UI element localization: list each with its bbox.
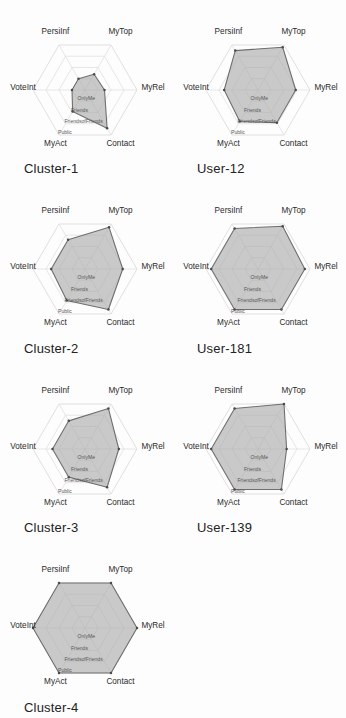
axis-label-voteint: VoteInt: [183, 83, 209, 92]
series-point: [276, 121, 279, 124]
series-point: [285, 448, 288, 451]
axis-label-voteint: VoteInt: [10, 83, 36, 92]
axis-label-persiinf: PersiInf: [42, 385, 70, 394]
ring-tick-label: OnlyMe: [77, 275, 95, 281]
series-point: [67, 239, 70, 242]
ring-tick-label: FriendsofFriends: [64, 297, 103, 303]
radar-chart-cluster-3: OnlyMeFriendsFriendsofFriendsPublicVoteI…: [0, 359, 173, 539]
axis-label-myact: MyAct: [217, 139, 240, 148]
axis-label-mytop: MyTop: [281, 206, 306, 215]
series-point: [103, 89, 106, 92]
series-point: [107, 309, 110, 312]
axis-label-mytop: MyTop: [108, 206, 133, 215]
axis-label-myrel: MyRel: [314, 83, 337, 92]
series-point: [58, 582, 61, 585]
radar-figure: Cluster-4 OnlyMeFriendsFriendsofFriendsP…: [0, 0, 346, 718]
panel-user-181: User-181 OnlyMeFriendsFriendsofFriendsPu…: [173, 180, 346, 360]
ring-tick-label: Public: [58, 308, 72, 314]
ring-tick-label: Friends: [244, 465, 261, 471]
axis-label-contact: Contact: [279, 498, 308, 507]
ring-tick-label: Friends: [71, 465, 88, 471]
radar-chart-cluster-1: OnlyMeFriendsFriendsofFriendsPublicVoteI…: [0, 0, 173, 180]
panel-user-139: User-139 OnlyMeFriendsFriendsofFriendsPu…: [173, 359, 346, 539]
series-point: [67, 419, 70, 422]
panel-cluster-1: Cluster-1 OnlyMeFriendsFriendsofFriendsP…: [0, 0, 173, 180]
ring-tick-label: Public: [231, 488, 245, 494]
axis-label-myact: MyAct: [217, 498, 240, 507]
axis-label-persiinf: PersiInf: [42, 206, 70, 215]
axis-label-contact: Contact: [106, 678, 135, 687]
series-point: [136, 627, 139, 630]
axis-label-mytop: MyTop: [108, 385, 133, 394]
ring-tick-label: Friends: [71, 106, 88, 112]
series-point: [51, 448, 54, 451]
panel-cluster-2: Cluster-2 OnlyMeFriendsFriendsofFriendsP…: [0, 180, 173, 360]
series-point: [283, 402, 286, 405]
axis-label-voteint: VoteInt: [10, 442, 36, 451]
radar-chart-user-139: OnlyMeFriendsFriendsofFriendsPublicVoteI…: [173, 359, 346, 539]
ring-tick-label: FriendsofFriends: [64, 118, 103, 124]
ring-tick-label: Public: [58, 667, 72, 673]
axis-label-voteint: VoteInt: [10, 262, 36, 271]
series-point: [280, 488, 283, 491]
series-point: [110, 672, 113, 675]
axis-label-myact: MyAct: [44, 498, 67, 507]
axis-label-myrel: MyRel: [141, 621, 164, 630]
ring-tick-label: FriendsofFriends: [237, 297, 276, 303]
series-point: [71, 89, 74, 92]
axis-label-persiinf: PersiInf: [215, 385, 243, 394]
axis-label-mytop: MyTop: [108, 565, 133, 574]
series-point: [106, 127, 109, 130]
panel-cluster-3: Cluster-3 OnlyMeFriendsFriendsofFriendsP…: [0, 359, 173, 539]
series-point: [110, 582, 113, 585]
series-point: [108, 226, 111, 229]
series-point: [294, 89, 297, 92]
ring-tick-label: Public: [58, 488, 72, 494]
series-point: [118, 448, 121, 451]
series-point: [233, 407, 236, 410]
ring-tick-label: OnlyMe: [77, 95, 95, 101]
ring-tick-label: OnlyMe: [77, 454, 95, 460]
series-point: [107, 407, 110, 410]
series-point: [233, 227, 236, 230]
ring-tick-label: FriendsofFriends: [64, 656, 103, 662]
series-point: [210, 448, 213, 451]
axis-label-persiinf: PersiInf: [42, 26, 70, 35]
ring-tick-label: OnlyMe: [250, 275, 268, 281]
radar-svg: OnlyMeFriendsFriendsofFriendsPublicVoteI…: [188, 187, 338, 351]
axis-label-contact: Contact: [106, 498, 135, 507]
ring-tick-label: FriendsofFriends: [237, 477, 276, 483]
ring-tick-label: OnlyMe: [250, 454, 268, 460]
radar-svg: OnlyMeFriendsFriendsofFriendsPublicVoteI…: [188, 367, 338, 531]
ring-tick-label: OnlyMe: [77, 634, 95, 640]
panel-cluster-4: Cluster-4 OnlyMeFriendsFriendsofFriendsP…: [0, 539, 173, 718]
axis-label-myrel: MyRel: [314, 442, 337, 451]
series-point: [304, 268, 307, 271]
ring-tick-label: Friends: [71, 286, 88, 292]
series-point: [106, 486, 109, 489]
ring-tick-label: Public: [58, 129, 72, 135]
series-point: [50, 268, 53, 271]
axis-label-contact: Contact: [279, 319, 308, 328]
axis-label-myact: MyAct: [44, 319, 67, 328]
axis-label-voteint: VoteInt: [183, 442, 209, 451]
axis-label-persiinf: PersiInf: [215, 26, 243, 35]
series-point: [280, 309, 283, 312]
axis-label-myrel: MyRel: [141, 442, 164, 451]
series-point: [121, 268, 124, 271]
ring-tick-label: OnlyMe: [250, 95, 268, 101]
axis-label-mytop: MyTop: [281, 385, 306, 394]
axis-label-persiinf: PersiInf: [215, 206, 243, 215]
axis-label-voteint: VoteInt: [183, 262, 209, 271]
ring-tick-label: FriendsofFriends: [237, 118, 276, 124]
radar-chart-cluster-4: OnlyMeFriendsFriendsofFriendsPublicVoteI…: [0, 539, 173, 718]
radar-chart-cluster-2: OnlyMeFriendsFriendsofFriendsPublicVoteI…: [0, 180, 173, 360]
axis-label-myrel: MyRel: [314, 262, 337, 271]
radar-chart-user-12: OnlyMeFriendsFriendsofFriendsPublicVoteI…: [173, 0, 346, 180]
ring-tick-label: FriendsofFriends: [64, 477, 103, 483]
radar-svg: OnlyMeFriendsFriendsofFriendsPublicVoteI…: [15, 367, 165, 531]
axis-label-contact: Contact: [279, 139, 308, 148]
ring-tick-label: Friends: [244, 106, 261, 112]
axis-label-mytop: MyTop: [108, 26, 133, 35]
series-point: [93, 73, 96, 76]
